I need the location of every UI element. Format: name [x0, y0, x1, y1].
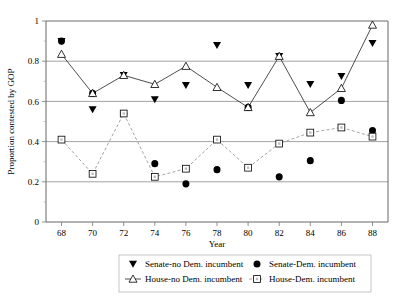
y-tick-label-2: 0.4	[28, 137, 40, 147]
x-tick-label-10: 88	[368, 228, 378, 238]
data-point	[89, 106, 97, 113]
series-2	[62, 25, 373, 113]
data-point	[369, 40, 377, 47]
data-point	[213, 42, 221, 49]
x-tick-label-1: 70	[88, 228, 98, 238]
axes-frame	[46, 21, 388, 222]
series-markers-0	[58, 38, 377, 113]
data-point	[276, 173, 283, 180]
data-point	[337, 73, 345, 80]
legend-label-0: Senate-no Dem. incumbent	[145, 259, 244, 269]
data-point-center	[154, 176, 156, 178]
data-point-center	[185, 168, 187, 170]
data-point-center	[216, 138, 218, 140]
y-tick-label-4: 0.8	[28, 56, 40, 66]
series-markers-1	[58, 38, 376, 188]
x-tick-label-6: 80	[244, 228, 254, 238]
legend-label-2: House-no Dem. incumbent	[145, 274, 243, 284]
x-axis-label: Year	[209, 239, 226, 249]
data-point-center	[123, 112, 125, 114]
y-tick-label-1: 0.2	[28, 177, 39, 187]
data-series	[58, 21, 377, 187]
legend-marker-1	[254, 260, 261, 267]
data-point	[213, 83, 221, 90]
data-point-center	[340, 126, 342, 128]
legend-marker-3-center	[256, 278, 258, 280]
y-axis: 00.20.40.60.81Proportion contested by GO…	[6, 16, 46, 227]
data-point-center	[278, 142, 280, 144]
legend-label-1: Senate-Dem. incumbent	[269, 259, 356, 269]
x-tick-label-7: 82	[275, 228, 284, 238]
y-tick-label-0: 0	[35, 217, 40, 227]
data-point	[337, 84, 345, 91]
chart-figure: 00.20.40.60.81Proportion contested by GO…	[0, 0, 407, 300]
data-point-center	[309, 131, 311, 133]
series-line-2	[62, 25, 373, 113]
x-tick-label-9: 86	[337, 228, 347, 238]
legend-marker-0	[129, 261, 137, 268]
data-point	[151, 160, 158, 167]
data-point-center	[91, 173, 93, 175]
y-axis-label: Proportion contested by GOP	[6, 68, 16, 174]
data-point	[338, 97, 345, 104]
x-tick-label-2: 72	[119, 228, 128, 238]
data-point	[307, 157, 314, 164]
data-point	[58, 38, 65, 45]
x-tick-label-0: 68	[57, 228, 67, 238]
x-axis: 6870727476788082848688Year	[57, 222, 378, 249]
data-point	[306, 81, 314, 88]
data-point	[182, 180, 189, 187]
data-point	[214, 166, 221, 173]
x-tick-label-3: 74	[150, 228, 160, 238]
data-point	[182, 82, 190, 89]
data-point-center	[60, 138, 62, 140]
chart-legend: Senate-no Dem. incumbentSenate-Dem. incu…	[119, 255, 371, 292]
data-point-center	[247, 167, 249, 169]
y-tick-label-5: 1	[35, 16, 40, 26]
x-tick-label-5: 78	[213, 228, 223, 238]
x-tick-label-8: 84	[306, 228, 316, 238]
data-point	[151, 96, 159, 103]
legend-label-3: House-Dem. incumbent	[269, 274, 355, 284]
data-point	[182, 62, 190, 69]
x-tick-label-4: 76	[181, 228, 191, 238]
y-tick-label-3: 0.6	[28, 97, 40, 107]
data-point	[244, 82, 252, 89]
data-point	[369, 21, 377, 28]
data-point	[306, 109, 314, 116]
chart-canvas: 00.20.40.60.81Proportion contested by GO…	[0, 0, 407, 300]
data-point	[58, 50, 66, 57]
data-point-center	[371, 135, 373, 137]
